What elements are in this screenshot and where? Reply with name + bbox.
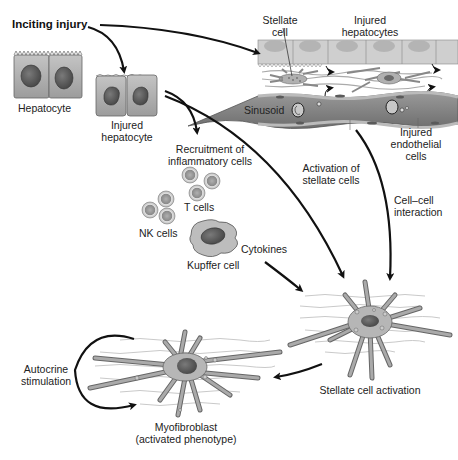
label-injured-hepatocytes-2: hepatocytes — [340, 26, 400, 38]
label-activation-stellate-2: stellate cells — [292, 174, 370, 186]
label-injured-hepatocyte-1: Injured — [104, 119, 150, 131]
injured-hepatocyte-illustration — [96, 75, 157, 117]
activated-stellate-cell-illustration — [290, 282, 450, 378]
label-kupffer-cell: Kupffer cell — [187, 259, 239, 271]
label-activation-stellate-1: Activation of — [292, 162, 370, 174]
label-stellate-cell-1: Stellate — [258, 14, 302, 26]
label-injured-endothelial-1: Injured — [384, 126, 448, 138]
label-hepatocyte: Hepatocyte — [18, 102, 71, 114]
label-injured-hepatocyte-2: hepatocyte — [98, 131, 156, 143]
label-recruitment-1: Recruitment of — [160, 143, 260, 155]
arrow-autocrine-loop — [75, 336, 134, 409]
arrow-injury-to-sinusoid — [100, 25, 258, 53]
label-t-cells: T cells — [184, 201, 214, 213]
label-stellate-cell-2: cell — [258, 26, 302, 38]
arrow-cytokines-to-stellate-activation — [265, 262, 301, 290]
label-inciting-injury: Inciting injury — [12, 18, 87, 30]
label-stellate-cell-activation: Stellate cell activation — [314, 384, 426, 396]
label-injured-endothelial-3: cells — [384, 150, 448, 162]
label-myofibroblast-2: (activated phenotype) — [126, 433, 246, 445]
myofibroblast-illustration — [90, 332, 280, 415]
label-injured-endothelial-2: endothelial — [384, 138, 448, 150]
hepatocyte-illustration — [14, 51, 82, 98]
label-autocrine-1: Autocrine — [18, 363, 74, 375]
label-recruitment-2: inflammatory cells — [160, 155, 260, 167]
label-cell-cell-1: Cell–cell — [394, 194, 434, 206]
arrow-injury-to-injured-hepatocyte — [88, 27, 124, 71]
label-myofibroblast-1: Myofibroblast — [126, 421, 246, 433]
label-injured-hepatocytes-1: Injured — [340, 14, 400, 26]
label-sinusoid: Sinusoid — [244, 104, 284, 116]
label-cytokines: Cytokines — [241, 243, 287, 255]
label-autocrine-2: stimulation — [14, 375, 78, 387]
arrow-stellate-to-myofibroblast — [276, 364, 322, 377]
label-cell-cell-2: interaction — [394, 206, 442, 218]
label-nk-cells: NK cells — [139, 227, 178, 239]
